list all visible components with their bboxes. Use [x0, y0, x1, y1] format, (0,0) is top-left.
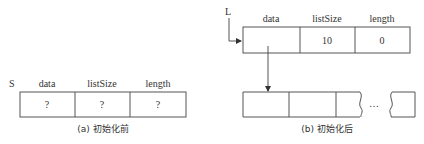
allocated-array: …: [243, 92, 415, 117]
field-value-data: ?: [45, 99, 50, 110]
field-header-length: length: [146, 78, 171, 89]
field-value-listsize: ?: [100, 99, 105, 110]
caption-before: (a) 初始化前: [77, 123, 128, 134]
field-value-length: ?: [156, 99, 161, 110]
field-value-listsize: 10: [322, 35, 332, 46]
array-ellipsis: …: [369, 98, 379, 109]
variable-label-s: S: [9, 78, 15, 89]
variable-label-l: L: [225, 6, 231, 17]
field-header-data: data: [263, 13, 280, 24]
field-header-data: data: [39, 78, 56, 89]
field-header-listsize: listSize: [312, 13, 342, 24]
field-header-length: length: [370, 13, 395, 24]
struct-after: L data listSize length 10 0 … (b) 初始化后: [225, 6, 415, 134]
array-break-left: [360, 92, 362, 117]
array-left-part: [243, 92, 360, 117]
field-header-listsize: listSize: [87, 78, 117, 89]
array-break-right: [390, 92, 392, 117]
struct-before: S data listSize length ? ? ? (a) 初始化前: [9, 78, 186, 134]
array-right-part: [391, 92, 415, 117]
caption-after: (b) 初始化后: [301, 123, 353, 134]
pointer-arrow-l: [229, 18, 241, 41]
diagram-canvas: S data listSize length ? ? ? (a) 初始化前 L …: [0, 0, 424, 144]
field-value-length: 0: [380, 35, 385, 46]
